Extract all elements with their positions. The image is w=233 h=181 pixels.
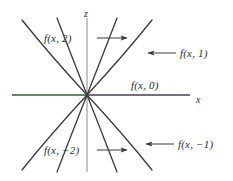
curve-f-x-minus-1-left (22, 95, 87, 170)
curve-f-x-minus-2-right (87, 95, 117, 172)
curve-label-f-x-1: f(x, 1) (180, 48, 208, 59)
curve-f-x-2-right (87, 18, 117, 95)
curve-f-x-minus-2-left (57, 95, 87, 172)
curve-label-f-x-0: f(x, 0) (131, 80, 159, 91)
curve-label-f-x-2: f(x, 2) (44, 33, 72, 44)
trace-plot-figure: f(x, 2) f(x, 1) f(x, 0) f(x, −1) f(x, −2… (0, 0, 233, 181)
plot-canvas (0, 0, 233, 181)
curve-label-f-x-minus-2: f(x, −2) (44, 145, 79, 156)
x-axis-label: x (196, 95, 200, 105)
curve-f-x-2-left (57, 18, 87, 95)
curve-label-f-x-minus-1: f(x, −1) (178, 139, 213, 150)
z-axis-label: z (84, 9, 88, 19)
curve-f-x-minus-1-right (87, 95, 152, 170)
